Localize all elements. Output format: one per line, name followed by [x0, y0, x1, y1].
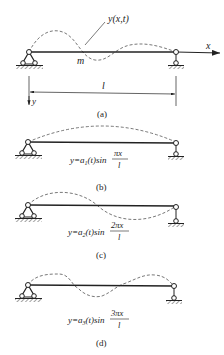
panel-c: y=a2(t)sin 2πx l (c) [15, 192, 184, 260]
caption-d: (d) [96, 338, 107, 348]
svg-text:y=a3(t)sin: y=a3(t)sin [67, 315, 105, 326]
caption-c: (c) [96, 250, 106, 260]
mass-label: m [77, 55, 84, 66]
caption-b: (b) [96, 182, 107, 192]
svg-text:3πx: 3πx [110, 308, 124, 318]
beam [28, 285, 174, 286]
panel-d: y=a3(t)sin 3πx l (d) [15, 274, 182, 348]
x-axis-arrow [176, 52, 220, 53]
svg-text:l: l [118, 160, 121, 170]
caption-a: (a) [97, 109, 107, 119]
svg-text:2πx: 2πx [111, 220, 124, 230]
y-axis-label: y [31, 96, 36, 106]
beam-vibration-diagram: x y(x,t) m l y (a) [0, 0, 224, 355]
svg-text:l: l [118, 320, 121, 330]
mode-formula-1: y=a1(t)sin πx l [69, 148, 128, 170]
label-leader [85, 22, 105, 45]
beam [28, 205, 176, 206]
panel-a: x y(x,t) m l y (a) [16, 13, 220, 119]
length-dimension [30, 92, 175, 94]
length-label: l [102, 80, 105, 91]
beam [28, 142, 176, 143]
mode-formula-2: y=a2(t)sin 2πx l [67, 220, 129, 242]
curve-label: y(x,t) [107, 13, 129, 25]
panel-b: y=a1(t)sin πx l (b) [15, 126, 184, 192]
mode-formula-3: y=a3(t)sin 3πx l [67, 308, 129, 330]
svg-text:y=a2(t)sin: y=a2(t)sin [67, 227, 105, 238]
deflection-curve [29, 31, 176, 60]
svg-text:πx: πx [114, 148, 122, 158]
svg-text:l: l [118, 232, 121, 242]
mode-shape-1 [28, 126, 176, 142]
x-axis-label: x [205, 40, 211, 51]
svg-text:y=a1(t)sin: y=a1(t)sin [69, 155, 107, 166]
roller-support-right [168, 205, 184, 228]
